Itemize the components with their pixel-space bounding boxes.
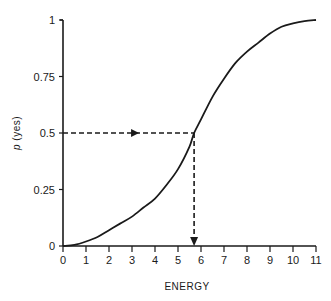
x-tick-label: 8 xyxy=(244,254,250,266)
x-tick-label: 0 xyxy=(60,254,66,266)
x-tick-label: 9 xyxy=(267,254,273,266)
y-tick-label: 1 xyxy=(49,14,55,26)
y-tick-label: 0.75 xyxy=(34,71,55,83)
y-axis-label-rest: (yes) xyxy=(11,116,22,144)
x-tick-label: 3 xyxy=(129,254,135,266)
y-axis-label: p (yes) xyxy=(11,116,22,151)
y-tick-label: 0.5 xyxy=(40,127,55,139)
x-tick-label: 4 xyxy=(152,254,158,266)
y-axis-label-italic: p xyxy=(11,144,22,151)
right-arrow-icon xyxy=(131,129,139,137)
x-tick-label: 1 xyxy=(83,254,89,266)
y-tick-label: 0 xyxy=(49,240,55,252)
down-arrow-icon xyxy=(190,237,198,246)
x-tick-label: 6 xyxy=(198,254,204,266)
x-tick-label: 11 xyxy=(310,254,321,266)
x-axis-label: ENERGY xyxy=(164,281,209,292)
x-tick-label: 2 xyxy=(106,254,112,266)
psychometric-chart: 00.250.50.75101234567891011 ENERGY p (ye… xyxy=(0,0,331,301)
y-tick-label: 0.25 xyxy=(34,184,55,196)
data-curve xyxy=(63,20,316,246)
x-tick-label: 10 xyxy=(287,254,299,266)
x-tick-label: 7 xyxy=(221,254,227,266)
x-tick-label: 5 xyxy=(175,254,181,266)
plot-area: 00.250.50.75101234567891011 xyxy=(34,14,322,266)
